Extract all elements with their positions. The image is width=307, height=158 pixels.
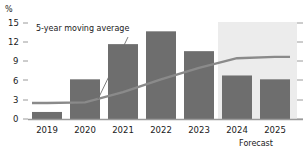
x-tick-label-2019: 2019 (36, 125, 58, 135)
x-tick-label-2021: 2021 (112, 125, 134, 135)
x-tick-label-2023: 2023 (188, 125, 210, 135)
y-tick-label-15: 15 (8, 18, 19, 28)
chart-container: % 15 12 9 6 3 0 (0, 0, 307, 158)
bar-2021[interactable] (108, 44, 138, 119)
y-tick-label-9: 9 (13, 56, 18, 66)
moving-average-annotation-label: 5-year moving average (36, 24, 129, 33)
y-tick-label-6: 6 (13, 76, 18, 86)
x-tick-label-2022: 2022 (150, 125, 172, 135)
bar-chart-with-moving-average: % 15 12 9 6 3 0 (0, 0, 307, 158)
x-tick-label-2020: 2020 (74, 125, 96, 135)
y-axis-unit-label: % (5, 5, 13, 14)
bar-2023[interactable] (184, 51, 214, 119)
x-tick-label-2025: 2025 (264, 125, 286, 135)
bar-2019[interactable] (32, 112, 62, 119)
y-tick-label-0: 0 (13, 114, 18, 124)
right-axis-ticks (297, 23, 303, 119)
y-tick-label-3: 3 (13, 95, 18, 105)
x-tick-label-2024: 2024 (226, 125, 248, 135)
forecast-region-label: Forecast (239, 139, 273, 148)
x-axis-labels: 2019 2020 2021 2022 2023 2024 2025 (36, 125, 286, 135)
bar-2025[interactable] (260, 79, 290, 119)
y-axis-ticks: 15 12 9 6 3 0 (8, 18, 28, 124)
bar-2024[interactable] (222, 75, 252, 119)
y-tick-label-12: 12 (8, 37, 19, 47)
